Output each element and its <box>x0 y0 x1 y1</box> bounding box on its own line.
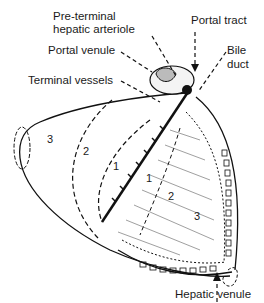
zone-label-right-3: 3 <box>194 210 200 222</box>
label-bile-duct-line2: duct <box>227 58 249 71</box>
cell-plate-bottom-inner <box>122 240 226 263</box>
bile-duct <box>182 85 192 95</box>
terminal-vessel-axis <box>102 92 188 222</box>
left-hepatic-venule-outline <box>14 127 30 169</box>
label-pre-terminal-arteriole-line2: hepatic arteriole <box>53 23 135 36</box>
zone-label-right-1: 1 <box>146 172 152 184</box>
zone-label-left-3: 3 <box>47 133 53 145</box>
label-portal-venule: Portal venule <box>48 44 115 57</box>
acinus-outline <box>20 93 230 276</box>
cell-plate-outline-inner <box>186 112 225 262</box>
zone-label-left-2: 2 <box>83 145 89 157</box>
label-pre-terminal-arteriole-line1: Pre-terminal <box>53 10 116 23</box>
zone-label-right-2: 2 <box>168 190 174 202</box>
zone-boundary-1 <box>99 120 150 222</box>
label-portal-tract: Portal tract <box>191 14 247 27</box>
label-bile-duct-line1: Bile <box>227 44 246 57</box>
acinus-diagram <box>0 0 264 303</box>
label-hepatic-venule: Hepatic venule <box>175 288 251 301</box>
zone-label-left-1: 1 <box>113 160 119 172</box>
arrowhead <box>191 64 199 72</box>
label-terminal-vessels: Terminal vessels <box>28 74 113 87</box>
